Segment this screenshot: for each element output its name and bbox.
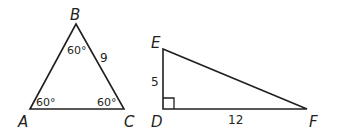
geometry-figure: B A C 60° 60° 60° 9 E D F 5 12	[0, 0, 338, 138]
vertex-label-b: B	[70, 6, 80, 24]
right-triangle-def: E D F 5 12	[151, 34, 318, 131]
vertex-label-c: C	[124, 113, 135, 131]
triangle-def-outline	[163, 49, 307, 109]
side-label-de: 5	[151, 75, 159, 89]
right-angle-marker-icon	[163, 98, 174, 109]
vertex-label-e: E	[151, 34, 161, 52]
vertex-label-d: D	[151, 113, 163, 131]
side-label-df: 12	[228, 113, 243, 127]
equilateral-triangle-abc: B A C 60° 60° 60° 9	[17, 6, 135, 131]
angle-label-c: 60°	[97, 96, 117, 109]
angle-label-b: 60°	[67, 44, 87, 57]
vertex-label-f: F	[309, 113, 318, 131]
angle-label-a: 60°	[36, 96, 56, 109]
side-label-bc: 9	[100, 51, 108, 65]
vertex-label-a: A	[17, 113, 28, 131]
